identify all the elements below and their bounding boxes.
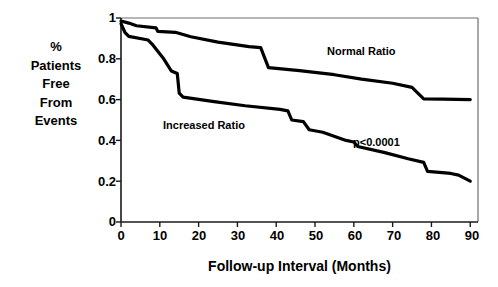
normal-ratio-curve <box>121 21 470 100</box>
survival-chart-figure: % Patients Free From Events Follow-up In… <box>0 0 498 287</box>
plot-canvas <box>0 0 498 287</box>
increased-ratio-curve <box>121 24 470 181</box>
